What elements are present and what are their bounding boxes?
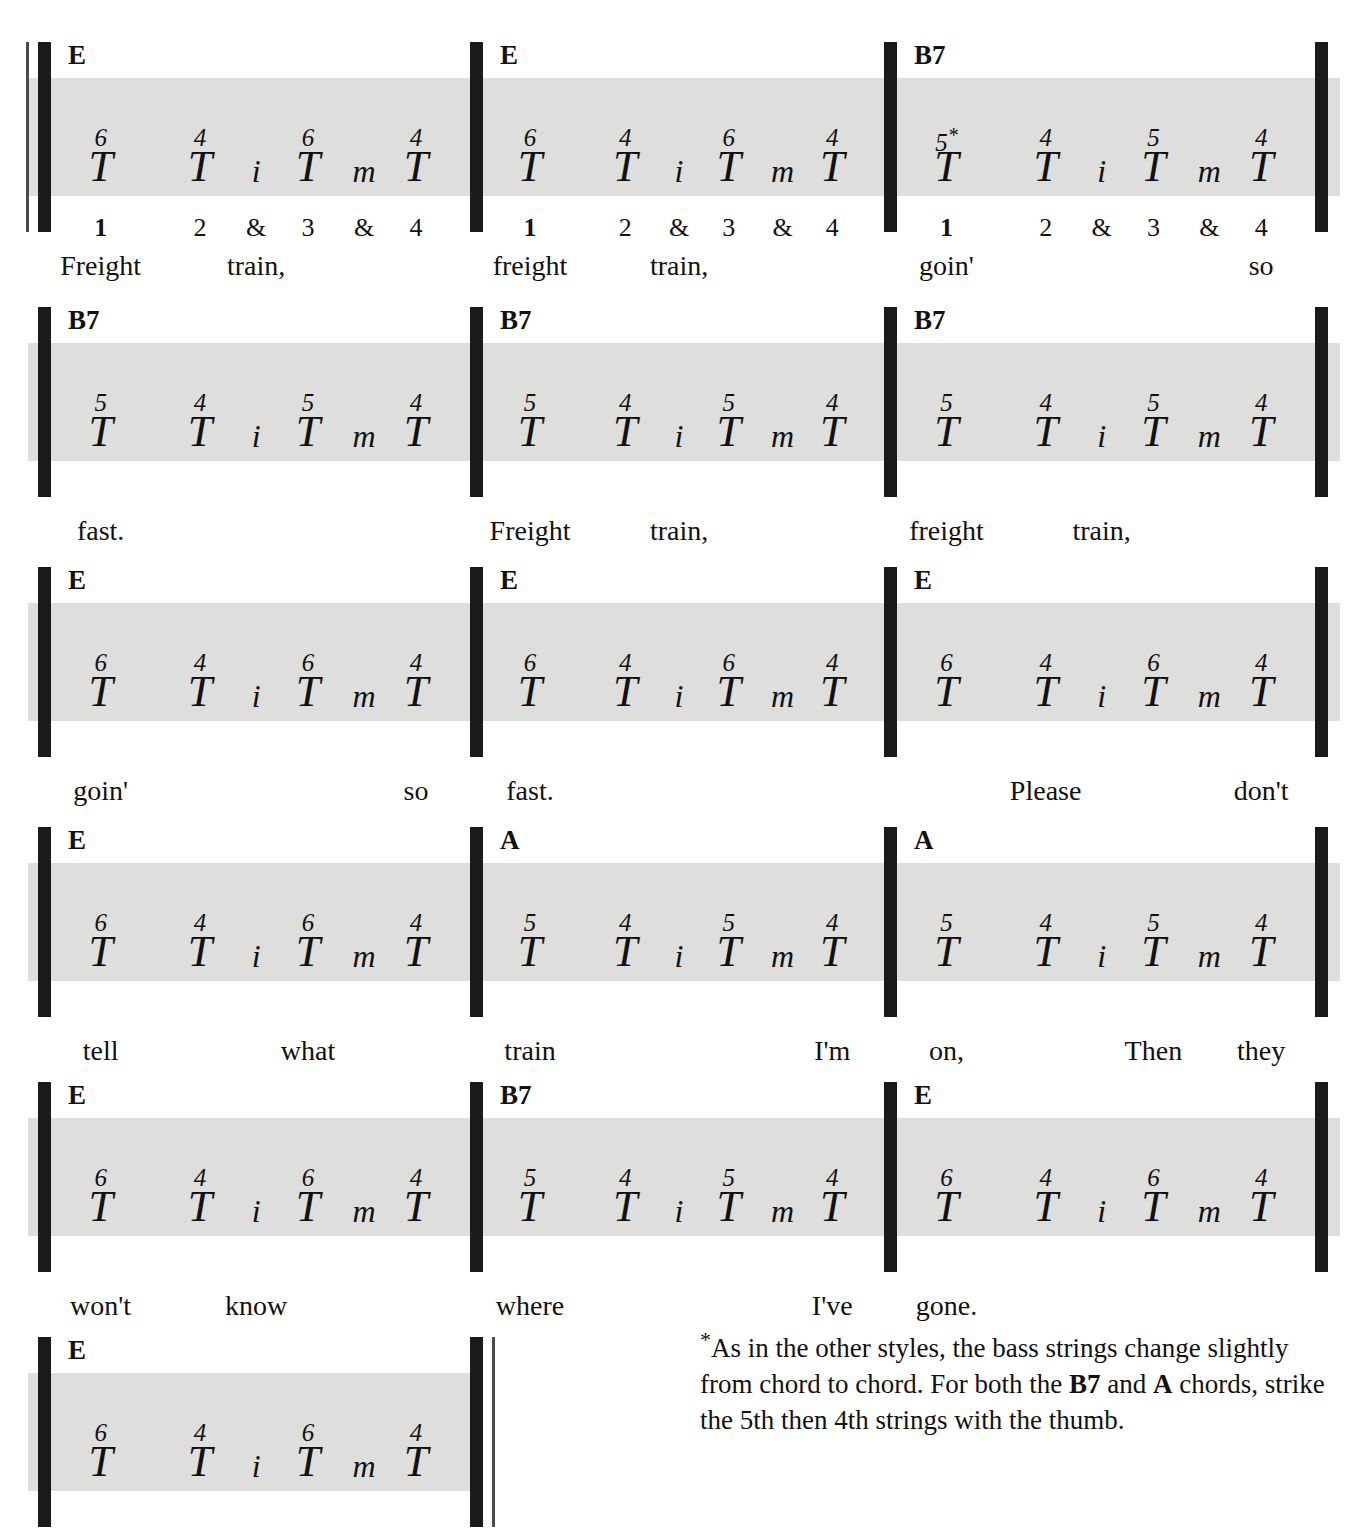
finger-letter: i — [1097, 420, 1106, 452]
finger-letter: T — [820, 1185, 844, 1229]
lyric-word: so — [404, 777, 429, 805]
finger-letter: m — [1198, 420, 1221, 452]
finger-letter: T — [1141, 410, 1165, 454]
chord-symbol: E — [914, 567, 932, 594]
chord-symbol: E — [500, 42, 518, 69]
chord-symbol: A — [914, 827, 934, 854]
picking-pattern: 6T4Ti6Tm4T — [38, 1420, 470, 1484]
barline-end — [1315, 307, 1328, 497]
picking-pattern: 6T4Ti6Tm4T — [884, 1165, 1315, 1229]
finger-letter: T — [1249, 670, 1273, 714]
finger-letter: i — [1097, 940, 1106, 972]
finger-letter: T — [296, 410, 320, 454]
finger-letter: T — [518, 930, 542, 974]
lyric-row: whereI've — [470, 1292, 884, 1326]
beat-label: 1 — [940, 215, 953, 241]
lyric-word: Freight — [60, 252, 141, 280]
finger-letter: T — [717, 145, 741, 189]
finger-letter: i — [675, 1195, 684, 1227]
finger-letter: T — [518, 670, 542, 714]
finger-letter: m — [353, 1450, 376, 1482]
lyric-word: Please — [1010, 777, 1082, 805]
finger-letter: i — [675, 420, 684, 452]
picking-pattern: 6T4Ti6Tm4T — [470, 650, 884, 714]
finger-letter: i — [252, 680, 261, 712]
beat-label: 3 — [302, 215, 315, 241]
finger-letter: T — [934, 1185, 958, 1229]
beat-label: 2 — [194, 215, 207, 241]
chord-symbol: B7 — [500, 307, 532, 334]
finger-letter: T — [1141, 670, 1165, 714]
finger-letter: T — [518, 410, 542, 454]
finger-letter: T — [934, 410, 958, 454]
lyric-word: so — [1249, 252, 1274, 280]
beat-label: 2 — [619, 215, 632, 241]
lyric-word: gone. — [916, 1292, 977, 1320]
finger-letter: T — [88, 145, 112, 189]
finger-letter: i — [1097, 1195, 1106, 1227]
lyric-word: Then — [1125, 1037, 1183, 1065]
finger-letter: T — [613, 930, 637, 974]
finger-letter: i — [252, 420, 261, 452]
finger-letter: m — [771, 155, 794, 187]
system-3: E6T4Ti6Tm4Tgoin'soE6T4Ti6Tm4Tfast.E6T4Ti… — [0, 555, 1357, 805]
finger-letter: T — [820, 410, 844, 454]
finger-letter: T — [296, 1440, 320, 1484]
finger-letter: i — [252, 155, 261, 187]
finger-letter: T — [404, 145, 428, 189]
finger-letter: T — [820, 670, 844, 714]
beat-label: & — [246, 215, 266, 241]
finger-letter: T — [1249, 1185, 1273, 1229]
lyric-row: Freighttrain, — [38, 252, 470, 286]
chord-symbol: E — [68, 567, 86, 594]
footnote-asterisk-icon: * — [700, 1327, 711, 1352]
barline-end — [1315, 567, 1328, 757]
finger-letter: i — [1097, 155, 1106, 187]
finger-letter: m — [353, 420, 376, 452]
picking-pattern: 6T4Ti6Tm4T — [884, 650, 1315, 714]
lyric-word: on, — [929, 1037, 964, 1065]
finger-letter: T — [934, 670, 958, 714]
picking-pattern: 6T4Ti6Tm4T — [38, 125, 470, 189]
finger-letter: T — [296, 670, 320, 714]
finger-letter: T — [1141, 1185, 1165, 1229]
lyric-word: freight — [909, 517, 984, 545]
lyric-word: I've — [812, 1292, 853, 1320]
lyric-word: fast. — [506, 777, 553, 805]
beat-label: & — [1092, 215, 1112, 241]
finger-letter: T — [717, 670, 741, 714]
finger-letter: i — [675, 680, 684, 712]
chord-symbol: B7 — [914, 307, 946, 334]
chord-symbol: E — [914, 1082, 932, 1109]
finger-letter: T — [518, 1185, 542, 1229]
finger-letter: T — [1033, 1185, 1057, 1229]
footnote-text-2: and — [1100, 1369, 1152, 1399]
lyric-word: train, — [650, 517, 708, 545]
beat-label: 1 — [94, 215, 107, 241]
barline-end — [1315, 1082, 1328, 1272]
system-2: B75T4Ti5Tm4Tfast.B75T4Ti5Tm4TFreighttrai… — [0, 295, 1357, 545]
lyric-word: freight — [493, 252, 568, 280]
lyric-word: Freight — [490, 517, 571, 545]
finger-letter: T — [404, 410, 428, 454]
lyric-word: goin' — [73, 777, 128, 805]
barline-end — [1315, 42, 1328, 232]
lyric-word: tell — [83, 1037, 119, 1065]
finger-letter: m — [1198, 940, 1221, 972]
lyric-word: train — [504, 1037, 555, 1065]
finger-letter: m — [771, 420, 794, 452]
finger-letter: m — [353, 155, 376, 187]
chord-symbol: B7 — [500, 1082, 532, 1109]
barline-end — [1315, 827, 1328, 1017]
finger-letter: i — [675, 155, 684, 187]
picking-pattern: 6T4Ti6Tm4T — [38, 650, 470, 714]
picking-pattern: 6T4Ti6Tm4T — [38, 1165, 470, 1229]
lyric-row: won'tknow — [38, 1292, 470, 1326]
lyric-word: don't — [1234, 777, 1289, 805]
beat-label: & — [669, 215, 689, 241]
finger-letter: T — [613, 670, 637, 714]
lyric-row: fast. — [38, 517, 470, 551]
lyric-word: train, — [1072, 517, 1130, 545]
finger-letter: i — [252, 940, 261, 972]
